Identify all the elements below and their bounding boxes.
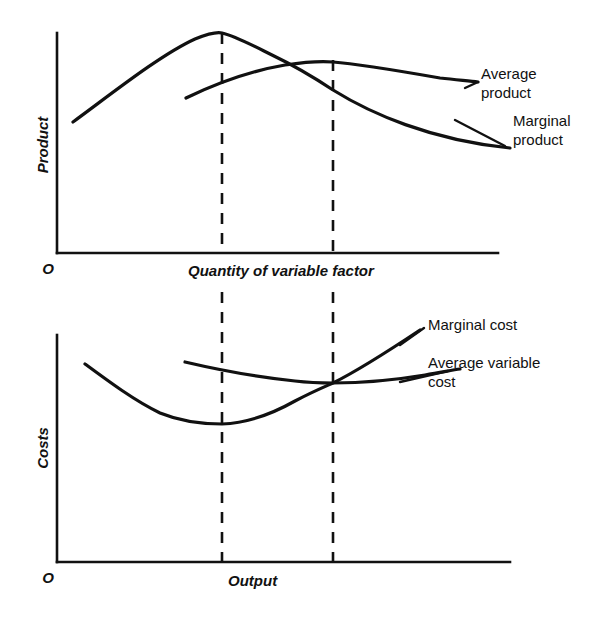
average-product-leader-line (465, 82, 478, 88)
average-product-label-line2: product (481, 84, 532, 101)
top-y-axis-label: Product (34, 116, 51, 174)
average-variable-cost-label-line1: Average variable (428, 354, 540, 371)
marginal-product-curve (73, 33, 510, 148)
average-product-label-line1: Average (481, 65, 537, 82)
economics-product-and-cost-curves-figure: Average product Marginal product Product… (0, 0, 593, 617)
marginal-cost-label-line1: Marginal cost (428, 316, 518, 333)
bottom-panel-cost-chart: Marginal cost Average variable cost Cost… (34, 316, 540, 589)
marginal-cost-leader-line (400, 328, 424, 345)
average-variable-cost-curve (185, 362, 460, 383)
top-x-axis-label: Quantity of variable factor (188, 262, 375, 279)
marginal-product-label-line1: Marginal (513, 112, 571, 129)
bottom-x-axis-label: Output (228, 572, 278, 589)
top-origin-label: O (42, 260, 54, 277)
bottom-y-axis-label: Costs (34, 427, 51, 469)
top-panel-product-chart: Average product Marginal product Product… (34, 33, 571, 279)
average-variable-cost-label-line2: cost (428, 373, 456, 390)
bottom-origin-label: O (42, 569, 54, 586)
reference-dashed-lines (222, 33, 333, 562)
marginal-product-label-line2: product (513, 131, 564, 148)
